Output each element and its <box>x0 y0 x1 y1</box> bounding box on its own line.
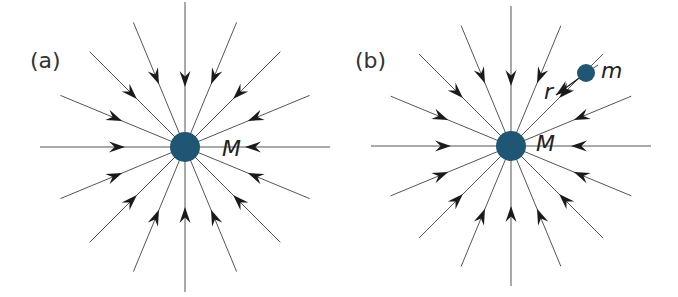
distance-label: r <box>544 79 553 104</box>
gravitational-field-diagram <box>0 0 678 297</box>
field-line-1-10 <box>419 146 511 238</box>
mass-label-b: M <box>536 131 555 156</box>
test-mass <box>577 64 595 82</box>
field-line-0-6 <box>90 52 185 147</box>
field-line-0-14 <box>185 147 280 242</box>
mass-label-a: M <box>222 136 241 161</box>
field-line-1-14 <box>511 146 603 238</box>
field-line-0-2 <box>185 52 280 147</box>
panel-b-label: (b) <box>355 48 386 73</box>
central-mass-0 <box>170 132 200 162</box>
central-mass-1 <box>496 131 526 161</box>
panel-a-label: (a) <box>30 48 61 73</box>
test-mass-label: m <box>601 58 622 83</box>
field-line-1-6 <box>419 54 511 146</box>
field-line-0-10 <box>90 147 185 242</box>
